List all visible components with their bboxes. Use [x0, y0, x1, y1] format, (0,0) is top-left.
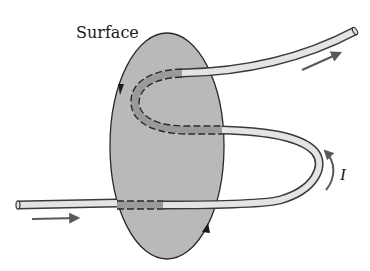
surface-label: Surface [76, 23, 139, 42]
wire-inside-surface-bottom [117, 201, 163, 209]
wire-end-cap-left [16, 201, 20, 209]
entry-arrow [32, 218, 78, 219]
wire-exit-top [182, 27, 359, 73]
wire-entry-left [16, 201, 117, 209]
amperes-law-surface-diagram: Surface I [0, 0, 370, 271]
loop-current-arrow [325, 151, 333, 190]
current-label: I [339, 165, 347, 184]
